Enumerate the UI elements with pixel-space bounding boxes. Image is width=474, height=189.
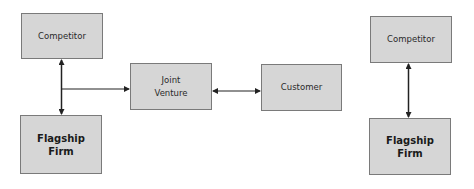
joint-venture-box: Joint Venture	[130, 63, 212, 110]
customer-box: Customer	[261, 64, 342, 111]
competitor-left-label: Competitor	[38, 30, 86, 43]
competitor-right-label: Competitor	[387, 33, 435, 46]
flagship-firm-left-box: Flagship Firm	[20, 115, 102, 174]
flagship-firm-left-label: Flagship Firm	[37, 132, 85, 158]
competitor-right-box: Competitor	[370, 16, 452, 63]
competitor-left-box: Competitor	[21, 13, 103, 59]
customer-label: Customer	[281, 81, 322, 94]
joint-venture-label: Joint Venture	[154, 74, 187, 100]
flagship-firm-right-label: Flagship Firm	[386, 134, 434, 160]
flagship-firm-right-box: Flagship Firm	[369, 118, 451, 175]
